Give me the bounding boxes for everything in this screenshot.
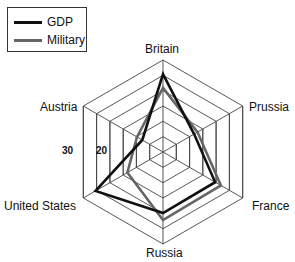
axis-label-austria: Austria <box>40 100 77 114</box>
tick-label-30: 30 <box>62 145 73 156</box>
legend-label-military: Military <box>47 33 85 47</box>
axis-label-britain: Britain <box>145 42 179 56</box>
legend-swatch-military <box>14 39 42 42</box>
axis-label-russia: Russia <box>146 246 183 260</box>
legend-swatch-gdp <box>14 21 42 24</box>
radar-series <box>96 74 221 220</box>
legend-label-gdp: GDP <box>47 15 73 29</box>
legend-item-military: Military <box>14 33 85 47</box>
axis-label-france: France <box>252 199 289 213</box>
axis-label-prussia: Prussia <box>249 100 289 114</box>
legend: GDP Military <box>7 7 87 52</box>
axis-label-united-states: United States <box>4 199 76 213</box>
series-military <box>127 88 220 220</box>
tick-label-20: 20 <box>96 145 107 156</box>
legend-item-gdp: GDP <box>14 15 73 29</box>
